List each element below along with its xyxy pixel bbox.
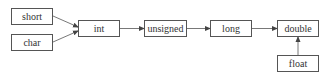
node-label: float [289,59,307,69]
edge-short-int [53,16,78,27]
edge-char-int [53,31,78,42]
node-label: unsigned [147,24,183,34]
node-char: char [11,34,53,51]
type-conversion-diagram: short char int unsigned long double floa… [0,0,328,78]
node-long: long [210,20,252,37]
node-float: float [277,55,319,72]
node-short: short [11,8,53,25]
node-label: long [222,24,240,34]
node-label: int [94,24,105,34]
node-double: double [277,20,319,37]
node-label: short [22,12,42,22]
node-int: int [78,20,120,37]
node-label: char [23,38,40,48]
node-label: double [284,24,311,34]
node-unsigned: unsigned [144,20,187,37]
